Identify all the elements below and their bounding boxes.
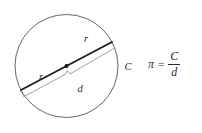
fraction-denominator: d: [169, 66, 179, 79]
fraction-c-over-d: C d: [168, 50, 180, 78]
diameter-brace: [21, 42, 115, 96]
figure-canvas: r r d C π = C d: [0, 0, 202, 133]
equals-sign: =: [158, 59, 164, 70]
fraction-numerator: C: [168, 50, 180, 63]
label-radius-lower: r: [39, 71, 44, 82]
label-radius-upper: r: [84, 33, 89, 44]
label-circumference: C: [124, 61, 132, 72]
center-point-dot: [65, 64, 69, 68]
pi-symbol: π: [148, 58, 154, 70]
pi-formula: π = C d: [148, 50, 180, 78]
label-diameter: d: [77, 83, 83, 94]
